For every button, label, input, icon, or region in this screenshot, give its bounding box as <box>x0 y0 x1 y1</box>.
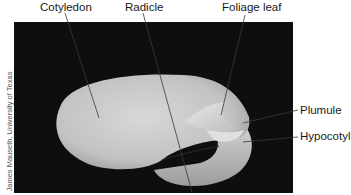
labeled-figure: James Mauseth, University of Texas Cotyl… <box>0 0 351 195</box>
embryo-illustration <box>14 22 293 193</box>
label-plumule: Plumule <box>300 104 342 117</box>
photo-credit: James Mauseth, University of Texas <box>5 82 14 192</box>
label-foliage-leaf: Foliage leaf <box>222 1 281 14</box>
label-radicle: Radicle <box>125 1 163 14</box>
label-cotyledon: Cotyledon <box>40 1 92 14</box>
label-hypocotyl: Hypocotyl <box>300 130 351 143</box>
embryo-photo <box>14 22 293 193</box>
